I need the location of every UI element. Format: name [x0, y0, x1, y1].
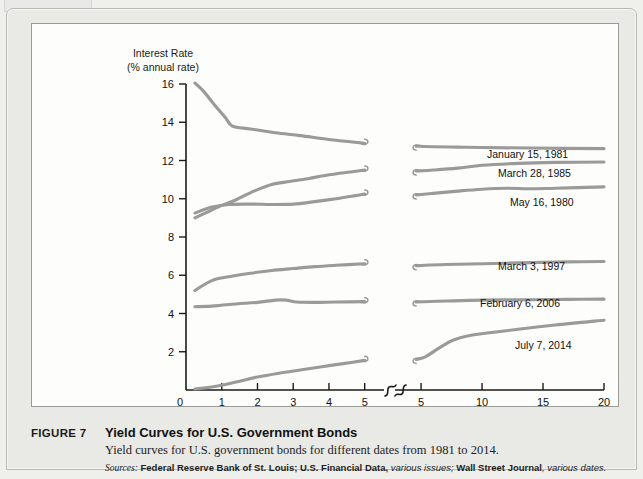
x-tick-label-left: 4	[326, 396, 332, 406]
sources-label: Sources:	[105, 463, 138, 473]
figure-card: Interest Rate(% annual rate)024681012141…	[6, 8, 637, 470]
chart-panel: Interest Rate(% annual rate)024681012141…	[31, 23, 619, 407]
caption-title-row: FIGURE 7 Yield Curves for U.S. Governmen…	[31, 425, 631, 440]
series-label: February 6, 2006	[480, 297, 560, 309]
y-axis-title-line1: Interest Rate	[133, 47, 193, 59]
y-tick-label: 10	[162, 193, 174, 205]
series-line-left	[195, 264, 365, 291]
series-1	[195, 83, 604, 150]
x-tick-label-left: 5	[362, 396, 368, 406]
x-tick-label-left: 2	[254, 396, 260, 406]
y-tick-label: 8	[168, 231, 174, 243]
y-tick-label: 0	[177, 396, 183, 406]
y-tick-label: 4	[168, 308, 174, 320]
yield-curve-chart: Interest Rate(% annual rate)024681012141…	[32, 24, 618, 406]
y-tick-label: 12	[162, 155, 174, 167]
series-label: July 7, 2014	[515, 339, 572, 351]
sources-part-3: Wall Street Journal	[456, 462, 542, 473]
sources-part-2: various issues;	[391, 462, 454, 473]
figure-title: Yield Curves for U.S. Government Bonds	[105, 425, 357, 440]
x-tick-label-left: 3	[290, 396, 296, 406]
x-tick-label-right: 10	[476, 396, 488, 406]
sources-part-1: Federal Reserve Bank of St. Louis; U.S. …	[141, 462, 389, 473]
series-label: March 28, 1985	[498, 167, 571, 179]
x-tick-label-right: 5	[418, 396, 424, 406]
series-line-left	[195, 83, 365, 143]
chart-area: Interest Rate(% annual rate)024681012141…	[32, 24, 618, 406]
axis-break-left-icon	[385, 385, 396, 396]
series-line-left	[195, 300, 365, 307]
figure-page: Interest Rate(% annual rate)024681012141…	[0, 0, 643, 479]
figure-number: FIGURE 7	[31, 427, 105, 439]
series-6	[195, 320, 604, 389]
x-tick-label-right: 20	[598, 396, 610, 406]
series-line-left	[195, 170, 365, 218]
y-tick-label: 14	[162, 116, 174, 128]
x-tick-label-right: 15	[537, 396, 549, 406]
y-axis-title-line2: (% annual rate)	[127, 61, 199, 73]
y-tick-label: 6	[168, 269, 174, 281]
series-label: January 15, 1981	[487, 148, 568, 160]
y-tick-label: 16	[162, 78, 174, 90]
figure-subtitle: Yield curves for U.S. government bonds f…	[105, 443, 631, 458]
y-tick-label: 2	[168, 346, 174, 358]
series-line-right	[416, 187, 604, 195]
x-tick-label-left: 1	[219, 396, 225, 406]
figure-caption: FIGURE 7 Yield Curves for U.S. Governmen…	[31, 425, 631, 473]
sources-part-4: , various dates.	[542, 462, 606, 473]
series-line-left	[195, 360, 365, 389]
series-line-right	[416, 320, 604, 359]
figure-sources: Sources: Federal Reserve Bank of St. Lou…	[105, 462, 631, 473]
series-label: March 3, 1997	[498, 260, 565, 272]
series-line-left	[195, 194, 365, 213]
series-label: May 16, 1980	[510, 196, 574, 208]
